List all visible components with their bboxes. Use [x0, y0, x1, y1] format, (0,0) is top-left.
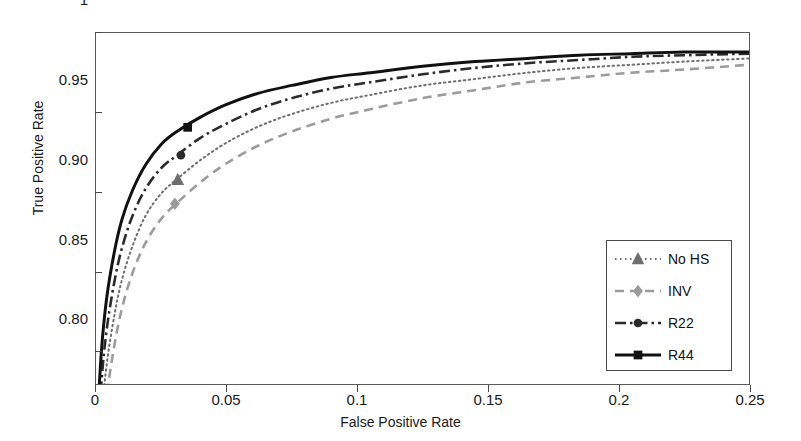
- legend-box: No HSINVR22R44: [606, 240, 732, 371]
- x-tick-mark: [95, 385, 96, 392]
- x-tick-mark: [357, 385, 358, 392]
- x-tick-mark: [488, 385, 489, 392]
- marker-no-hs: [172, 173, 185, 185]
- legend-item-no-hs[interactable]: No HS: [607, 243, 733, 275]
- x-tick-label: 0: [65, 392, 125, 409]
- x-tick-label: 0.1: [327, 392, 387, 409]
- x-tick-label: 0.25: [720, 392, 780, 409]
- x-tick-mark: [750, 385, 751, 392]
- x-tick-label: 0.15: [458, 392, 518, 409]
- y-tick-mark: [95, 112, 102, 113]
- marker-r22: [177, 151, 186, 160]
- legend-label: R22: [668, 315, 694, 331]
- legend-label: INV: [668, 283, 691, 299]
- marker-r44: [183, 123, 192, 132]
- legend-item-r22[interactable]: R22: [607, 307, 733, 339]
- legend-item-inv[interactable]: INV: [607, 275, 733, 307]
- y-tick-mark: [95, 32, 102, 33]
- x-tick-mark: [226, 385, 227, 392]
- x-tick-label: 0.2: [589, 392, 649, 409]
- legend-label: No HS: [668, 251, 709, 267]
- y-tick-label: 1: [30, 0, 88, 7]
- legend-item-r44[interactable]: R44: [607, 339, 733, 371]
- legend-label: R44: [668, 347, 694, 363]
- y-tick-mark: [95, 272, 102, 273]
- y-tick-mark: [95, 192, 102, 193]
- y-tick-mark: [95, 351, 102, 352]
- x-tick-label: 0.05: [196, 392, 256, 409]
- legend-sample-diamond-icon: [612, 278, 664, 304]
- legend-sample-square-icon: [612, 342, 664, 368]
- roc-chart-figure: 0.800.850.900.951 00.050.10.150.20.25 Tr…: [0, 0, 801, 441]
- y-tick-label: 0.80: [30, 311, 88, 326]
- legend-sample-triangle-icon: [612, 246, 664, 272]
- x-tick-mark: [619, 385, 620, 392]
- legend-sample-circle-icon: [612, 310, 664, 336]
- x-axis-title: False Positive Rate: [0, 414, 801, 430]
- y-axis-title: True Positive Rate: [30, 58, 46, 258]
